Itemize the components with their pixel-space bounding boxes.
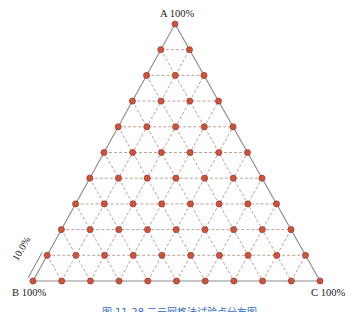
grid-point xyxy=(144,175,150,181)
grid-point xyxy=(30,278,36,284)
grid-point xyxy=(73,201,79,207)
grid-point xyxy=(317,278,323,284)
grid-point xyxy=(202,227,208,233)
grid-point xyxy=(130,149,136,155)
grid-point xyxy=(144,227,150,233)
grid-line xyxy=(47,255,62,281)
grid-line xyxy=(104,153,177,282)
grid-point xyxy=(159,201,165,207)
grid-point xyxy=(216,149,222,155)
grid-line xyxy=(62,50,190,281)
grid-point xyxy=(116,227,122,233)
grid-point xyxy=(230,175,236,181)
grid-point xyxy=(44,252,50,258)
grid-point xyxy=(230,124,236,130)
grid-point xyxy=(87,227,93,233)
grid-point xyxy=(273,201,279,207)
grid-point xyxy=(231,278,237,284)
grid-point xyxy=(101,149,107,155)
grid-point xyxy=(288,227,294,233)
grid-line xyxy=(291,255,305,281)
grid-point xyxy=(288,278,294,284)
vertex-label-a: A 100% xyxy=(160,8,194,19)
grid-point xyxy=(59,278,65,284)
grid-point xyxy=(102,252,108,258)
grid-point xyxy=(87,175,93,181)
grid-point xyxy=(245,252,251,258)
grid-point xyxy=(260,278,266,284)
grid-point xyxy=(231,227,237,233)
grid-point xyxy=(115,175,121,181)
grid-point xyxy=(186,47,192,53)
grid-point xyxy=(274,252,280,258)
grid-point xyxy=(215,98,221,104)
grid-line xyxy=(234,204,277,281)
scale-bar-line xyxy=(28,252,42,278)
grid-point xyxy=(159,252,165,258)
grid-point xyxy=(58,227,64,233)
grid-point xyxy=(172,72,178,78)
grid-point xyxy=(187,149,193,155)
grid-point xyxy=(216,201,222,207)
grid-point xyxy=(173,227,179,233)
grid-point xyxy=(130,201,136,207)
grid-point xyxy=(202,175,208,181)
grid-point xyxy=(87,278,93,284)
grid-point xyxy=(173,278,179,284)
grid-point xyxy=(201,72,207,78)
grid-point xyxy=(188,252,194,258)
grid-point xyxy=(173,124,179,130)
grid-point xyxy=(73,252,79,258)
grid-point xyxy=(130,252,136,258)
figure-caption: 图 11-28 三元网格法试验点分布图 xyxy=(0,304,359,312)
grid-point xyxy=(158,47,164,53)
grid-point xyxy=(158,98,164,104)
grid-lines xyxy=(47,50,305,281)
grid-point xyxy=(259,175,265,181)
grid-point xyxy=(116,278,122,284)
grid-point xyxy=(216,252,222,258)
grid-point xyxy=(101,201,107,207)
grid-point xyxy=(202,278,208,284)
grid-point xyxy=(245,201,251,207)
scale-bar xyxy=(28,252,42,278)
grid-point xyxy=(187,98,193,104)
grid-point xyxy=(173,175,179,181)
grid-point xyxy=(144,72,150,78)
ternary-diagram xyxy=(0,0,359,312)
grid-point xyxy=(187,201,193,207)
grid-line xyxy=(76,204,120,281)
grid-point xyxy=(259,227,265,233)
grid-point xyxy=(302,252,308,258)
grid-point xyxy=(115,124,121,130)
grid-line xyxy=(161,50,291,281)
grid-point xyxy=(144,124,150,130)
grid-point xyxy=(129,98,135,104)
vertex-label-c: C 100% xyxy=(311,287,345,298)
grid-line xyxy=(177,153,248,282)
vertex-label-b: B 100% xyxy=(12,287,46,298)
grid-point xyxy=(201,124,207,130)
grid-point xyxy=(158,149,164,155)
grid-point xyxy=(244,149,250,155)
grid-point xyxy=(145,278,151,284)
grid-point xyxy=(172,21,178,27)
